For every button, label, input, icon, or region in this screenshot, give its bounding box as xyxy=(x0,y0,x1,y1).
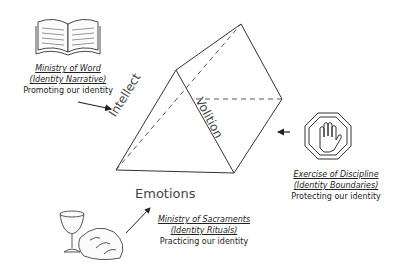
discipline-subtitle: (Identity Boundaries) xyxy=(272,180,400,191)
discipline-purpose: Protecting our identity xyxy=(272,191,400,202)
discipline-title: Exercise of Discipline xyxy=(272,169,400,180)
caption-sacraments: Ministry of Sacraments (Identity Rituals… xyxy=(144,214,264,247)
caption-discipline: Exercise of Discipline (Identity Boundar… xyxy=(272,169,400,202)
chalice-bread-icon xyxy=(60,211,123,260)
caption-word: Ministry of Word (Identity Narrative) Pr… xyxy=(8,63,128,96)
word-purpose: Promoting our identity xyxy=(8,85,128,96)
sacraments-title: Ministry of Sacraments xyxy=(144,214,264,225)
open-book-icon xyxy=(36,19,100,55)
face-label-emotions: Emotions xyxy=(135,186,196,201)
sacraments-subtitle: (Identity Rituals) xyxy=(144,225,264,236)
stop-hand-icon xyxy=(305,113,351,159)
sacraments-purpose: Practicing our identity xyxy=(144,236,264,247)
arrow-word xyxy=(78,102,111,109)
word-subtitle: (Identity Narrative) xyxy=(8,74,128,85)
word-title: Ministry of Word xyxy=(8,63,128,74)
